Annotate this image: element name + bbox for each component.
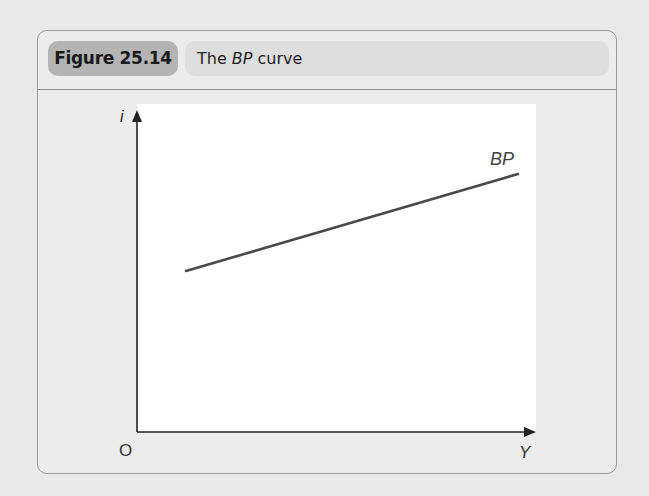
origin-label: O [119, 441, 132, 460]
y-axis-label: i [120, 108, 124, 125]
x-axis-label: Y [519, 443, 532, 462]
bp-curve-label: BP [490, 149, 514, 169]
bp-chart: i BP O Y [0, 0, 649, 496]
